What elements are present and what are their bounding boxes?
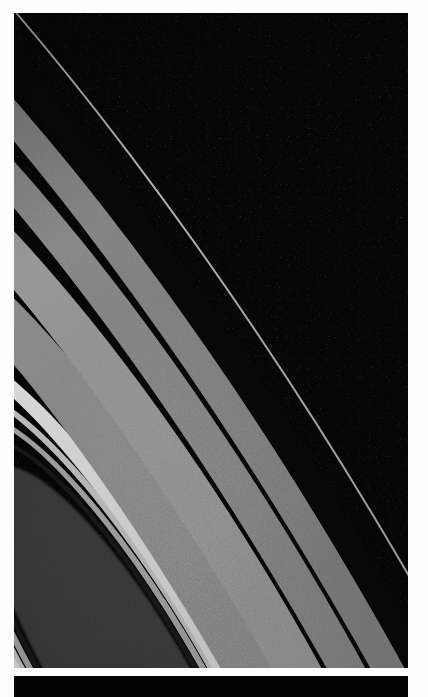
photograph-canvas: [14, 13, 408, 668]
lower-black-strip: [14, 676, 408, 697]
saturn-rings-photograph: [14, 13, 408, 668]
page-root: [0, 0, 428, 697]
white-gutter: [0, 668, 428, 676]
ring-f-ring: [14, 13, 408, 668]
